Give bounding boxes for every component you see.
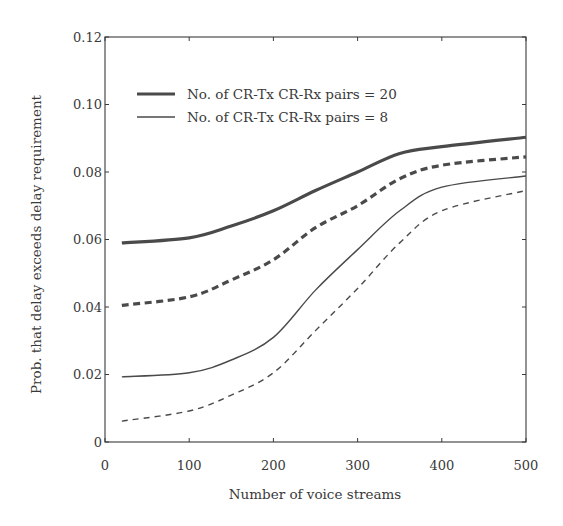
series-line-1 (122, 157, 526, 306)
line-chart: 00.020.040.060.080.100.12 01002003004005… (0, 0, 563, 526)
x-tick-label: 500 (514, 458, 539, 473)
y-tick-label: 0 (94, 435, 102, 450)
x-axis-ticks: 0100200300400500 (101, 37, 539, 473)
y-tick-label: 0.06 (73, 232, 102, 247)
y-tick-label: 0.04 (73, 300, 102, 315)
x-tick-label: 100 (177, 458, 202, 473)
series-line-0 (122, 137, 526, 243)
legend-label-pairs-20: No. of CR-Tx CR-Rx pairs = 20 (187, 86, 397, 102)
data-series (122, 137, 526, 421)
x-axis-title: Number of voice streams (229, 486, 402, 502)
y-axis-title: Prob. that delay exceeds delay requireme… (28, 94, 44, 394)
x-tick-label: 300 (345, 458, 370, 473)
legend: No. of CR-Tx CR-Rx pairs = 20 No. of CR-… (137, 86, 397, 125)
y-tick-label: 0.10 (73, 97, 102, 112)
series-line-2 (122, 176, 526, 377)
x-tick-label: 200 (261, 458, 286, 473)
series-line-3 (122, 191, 526, 422)
x-tick-label: 0 (101, 458, 109, 473)
y-tick-label: 0.12 (73, 30, 102, 45)
y-tick-label: 0.08 (73, 165, 102, 180)
y-tick-label: 0.02 (73, 367, 102, 382)
legend-label-pairs-8: No. of CR-Tx CR-Rx pairs = 8 (187, 109, 388, 125)
x-tick-label: 400 (429, 458, 454, 473)
